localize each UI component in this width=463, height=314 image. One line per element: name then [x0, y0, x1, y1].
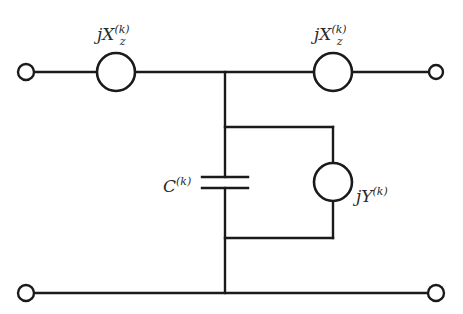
- label-subscript: z: [337, 35, 343, 48]
- label-shunt-admittance: jY(k): [356, 186, 388, 205]
- label-right-series-impedance: jX(k)z: [314, 24, 342, 43]
- label-prefix: jX: [314, 24, 331, 44]
- terminal-top-left: [18, 64, 34, 80]
- terminal-bottom-right: [428, 285, 444, 301]
- label-superscript: (k): [373, 185, 388, 198]
- label-superscript: (k): [176, 175, 191, 188]
- terminal-bottom-left: [18, 285, 34, 301]
- left-series-impedance-element: [97, 53, 135, 91]
- label-left-series-impedance: jX(k)z: [97, 24, 125, 43]
- shunt-branch: [202, 72, 352, 293]
- shunt-admittance-element: [314, 163, 352, 201]
- capacitor-symbol: [202, 177, 248, 188]
- label-prefix: jX: [97, 24, 114, 44]
- label-capacitor: C(k): [163, 176, 191, 195]
- right-series-impedance-element: [314, 53, 352, 91]
- circuit-diagram: [0, 0, 463, 314]
- label-subscript: z: [120, 35, 126, 48]
- label-prefix: jY: [356, 186, 373, 206]
- label-prefix: C: [163, 176, 176, 196]
- terminal-top-right: [429, 65, 443, 79]
